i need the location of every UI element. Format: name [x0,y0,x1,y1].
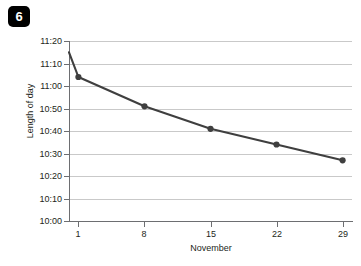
data-point [340,157,346,163]
series-markers [75,74,345,163]
data-point [273,141,279,147]
data-point [207,126,213,132]
data-point [75,74,81,80]
x-axis-title: November [69,243,353,253]
series-line [69,52,343,160]
line-chart: 11:2011:1011:0010:5010:4010:3010:2010:10… [0,0,361,266]
data-series-layer [0,0,361,266]
data-point [141,103,147,109]
y-axis-title: Length of day [25,81,35,141]
